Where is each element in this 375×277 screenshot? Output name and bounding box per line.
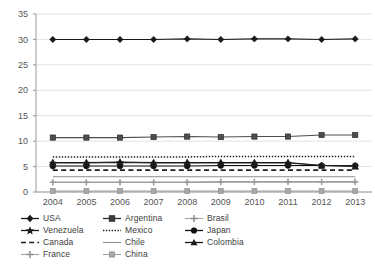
legend-label: Colombia [207,237,244,248]
star-solid-key [20,225,40,236]
series-line [53,135,355,138]
series-line [53,182,355,183]
legend-item-france[interactable]: France [20,249,102,260]
legend-label: USA [43,213,61,224]
series-line [53,156,355,157]
marker-diamond [117,36,123,42]
x-axis-tick-label: 2004 [43,197,63,207]
x-axis-tick-label: 2010 [244,197,264,207]
marker-diamond [318,36,324,42]
marker-diamond [50,36,56,42]
marker-square [50,189,55,194]
y-axis-tick-label: 5 [23,162,28,172]
legend-label: China [125,249,148,260]
thin-line-key [102,237,122,248]
marker-square [84,135,89,140]
legend-marker-circle [191,227,197,233]
marker-diamond [83,36,89,42]
x-axis-tick-label: 2012 [312,197,332,207]
legend-item-japan[interactable]: Japan [184,225,266,236]
marker-square [319,189,324,194]
plot-area: 0510152025303520042005200620072008200920… [0,0,375,210]
legend-label: Brasil [207,213,229,224]
legend-label: Chile [125,237,145,248]
marker-square [285,134,290,139]
x-axis-tick-label: 2008 [177,197,197,207]
legend-label: Japan [207,225,231,236]
line-chart: 0510152025303520042005200620072008200920… [0,0,375,277]
legend-label: France [43,249,70,260]
diamond-solid-key [20,213,40,224]
cross-light-key [20,249,40,260]
legend-row: CanadaChileColombia [20,237,365,248]
marker-diamond [184,36,190,42]
series-colombia [50,159,359,169]
cross-light-key [184,213,204,224]
plot-svg: 0510152025303520042005200620072008200920… [0,0,375,210]
marker-square [151,189,156,194]
series-japan [50,163,358,169]
x-axis-tick-label: 2011 [278,197,297,207]
marker-square [218,134,223,139]
marker-square [353,132,358,137]
x-axis-tick-label: 2005 [76,197,96,207]
marker-diamond [352,36,358,42]
marker-diamond [285,36,291,42]
marker-square [185,189,190,194]
marker-square [252,189,257,194]
marker-diamond [218,36,224,42]
marker-square [117,135,122,140]
series-usa [50,36,359,43]
legend-item-colombia[interactable]: Colombia [184,237,266,248]
marker-square [252,134,257,139]
marker-square [286,189,291,194]
dashed-line-key [20,237,40,248]
marker-square [118,189,123,194]
legend-marker-diamond [27,215,34,222]
legend-item-venezuela[interactable]: Venezuela [20,225,102,236]
marker-square [319,132,324,137]
series-argentina [50,132,358,140]
legend-item-brasil[interactable]: Brasil [184,213,266,224]
legend-item-usa[interactable]: USA [20,213,102,224]
circle-solid-key [184,225,204,236]
marker-square [218,189,223,194]
legend-item-china[interactable]: China [102,249,184,260]
x-axis-tick-label: 2006 [110,197,130,207]
legend-label: Argentina [125,213,162,224]
y-axis-tick-label: 10 [18,136,28,146]
marker-square [151,134,156,139]
marker-square [84,189,89,194]
marker-square [353,189,358,194]
y-axis-tick-label: 35 [18,9,28,19]
x-axis-tick-label: 2013 [345,197,365,207]
series-mexico [53,156,355,157]
legend-item-chile[interactable]: Chile [102,237,184,248]
y-axis-tick-label: 0 [23,187,28,197]
y-axis-tick-label: 20 [18,85,28,95]
y-axis-tick-label: 30 [18,35,28,45]
x-axis-tick-label: 2009 [211,197,231,207]
legend-marker-square [109,216,115,222]
legend-row: VenezuelaMexicoJapan [20,225,365,236]
square-solid-key [102,213,122,224]
series-france [50,179,358,186]
legend-label: Venezuela [43,225,84,236]
triangle-solid-key [184,237,204,248]
legend-item-mexico[interactable]: Mexico [102,225,184,236]
chart-legend: USAArgentinaBrasilVenezuelaMexicoJapanCa… [20,213,365,260]
marker-square [50,135,55,140]
x-axis-tick-label: 2007 [144,197,164,207]
legend-marker-star [26,226,35,234]
legend-row: FranceChina [20,249,365,260]
series-line [53,166,355,167]
legend-item-canada[interactable]: Canada [20,237,102,248]
legend-row: USAArgentinaBrasil [20,213,365,224]
dotted-line-key [102,225,122,236]
legend-marker-square [109,252,114,257]
marker-diamond [251,36,257,42]
legend-label: Mexico [125,225,153,236]
legend-item-argentina[interactable]: Argentina [102,213,184,224]
y-axis-tick-label: 15 [18,111,28,121]
marker-diamond [150,36,156,42]
